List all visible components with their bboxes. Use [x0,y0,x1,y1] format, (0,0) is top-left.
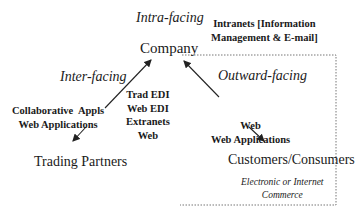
arrow-to-company-right [184,61,219,97]
outward-facing-label: Outward-facing [218,68,307,84]
customers-node: Customers/Consumers [228,152,355,168]
company-node: Company [140,40,198,57]
outward-facing-tools: Web Web Applications [211,119,290,146]
tool-item: Web EDI [126,102,170,116]
tool-item: Web Applications [12,118,104,132]
collaborative-tools: Collaborative Appls Web Applications [12,104,104,131]
intranets-line: Intranets [Information [211,17,318,31]
tool-item: Collaborative Appls [12,104,104,118]
trading-partners-node: Trading Partners [34,154,127,170]
caption-line: Commerce [241,189,324,202]
tool-item: Web [126,129,170,143]
tool-item: Web Applications [211,133,290,147]
tool-item: Extranets [126,115,170,129]
intra-facing-label: Intra-facing [136,10,204,26]
caption-line: Electronic or Internet [241,176,324,189]
intranets-label: Intranets [Information Management & E-ma… [211,17,318,45]
intranets-line: Management & E-mail] [211,31,318,45]
tool-item: Web [211,119,290,133]
ecommerce-caption: Electronic or Internet Commerce [241,176,324,202]
inter-facing-label: Inter-facing [60,69,127,85]
tool-item: Trad EDI [126,88,170,102]
inter-facing-tools: Trad EDI Web EDI Extranets Web [126,88,170,142]
